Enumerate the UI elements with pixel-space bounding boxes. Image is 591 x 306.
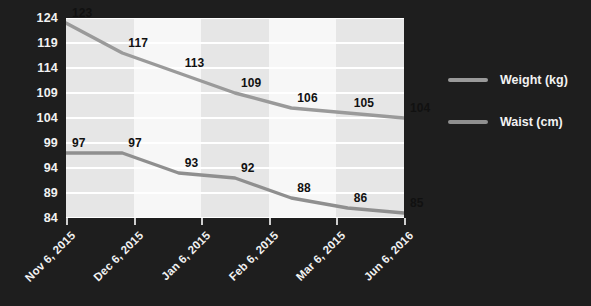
- x-tick-label: Nov 6, 2015: [23, 229, 78, 284]
- x-axis: Nov 6, 2015Dec 6, 2015Jan 6, 2015Feb 6, …: [0, 218, 591, 306]
- legend-item-waist[interactable]: Waist (cm): [448, 112, 583, 132]
- plot-area: [66, 18, 404, 218]
- x-tick-label: Feb 6, 2015: [226, 229, 280, 283]
- x-tick-mark: [201, 218, 203, 225]
- chart-root: 12311711310910610510497979392888685 1241…: [0, 0, 591, 306]
- x-tick-mark: [66, 218, 68, 225]
- x-tick-mark: [404, 218, 406, 225]
- y-tick-label: 114: [0, 61, 58, 75]
- x-tick-label: Dec 6, 2015: [91, 229, 145, 283]
- y-tick-label: 119: [0, 36, 58, 50]
- point-label-weight: 123: [72, 6, 92, 20]
- point-label-waist: 97: [72, 136, 86, 150]
- y-tick-label: 89: [0, 186, 58, 200]
- point-label-weight: 113: [185, 56, 205, 70]
- legend-swatch-weight: [448, 78, 488, 81]
- point-label-waist: 88: [297, 181, 311, 195]
- point-label-weight: 105: [354, 96, 374, 110]
- y-tick-label: 99: [0, 136, 58, 150]
- legend-label-weight: Weight (kg): [500, 73, 568, 87]
- series-lines: [66, 18, 404, 218]
- x-tick-label: Jun 6, 2016: [362, 229, 416, 283]
- point-label-waist: 92: [241, 161, 255, 175]
- point-label-waist: 93: [185, 156, 199, 170]
- point-label-waist: 85: [410, 196, 424, 210]
- x-tick-label: Jan 6, 2015: [159, 229, 212, 282]
- y-tick-label: 124: [0, 11, 58, 25]
- point-label-waist: 97: [128, 136, 142, 150]
- point-label-weight: 104: [410, 101, 430, 115]
- y-axis: 12411911410910499948984: [0, 18, 58, 218]
- x-tick-mark: [336, 218, 338, 225]
- x-tick-mark: [269, 218, 271, 225]
- chart-legend: Weight (kg) Waist (cm): [448, 70, 583, 154]
- y-tick-label: 109: [0, 86, 58, 100]
- y-tick-label: 94: [0, 161, 58, 175]
- legend-label-waist: Waist (cm): [500, 115, 563, 129]
- y-tick-label: 104: [0, 111, 58, 125]
- x-tick-label: Mar 6, 2015: [294, 229, 348, 283]
- point-label-waist: 86: [354, 191, 368, 205]
- x-tick-mark: [134, 218, 136, 225]
- legend-item-weight[interactable]: Weight (kg): [448, 70, 583, 90]
- point-label-weight: 109: [241, 76, 261, 90]
- point-label-weight: 117: [128, 36, 148, 50]
- legend-swatch-waist: [448, 120, 488, 123]
- point-label-weight: 106: [297, 91, 317, 105]
